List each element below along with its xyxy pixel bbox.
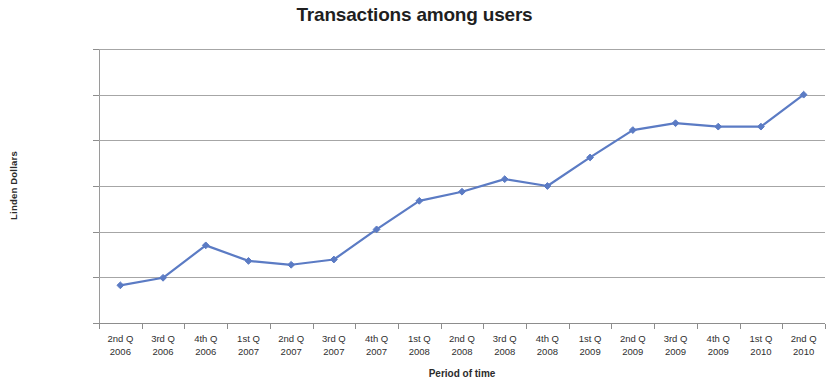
x-label-year: 2008 [483, 346, 526, 359]
x-axis-tick-label: 1st Q2010 [740, 333, 783, 358]
x-label-year: 2006 [142, 346, 185, 359]
x-label-quarter: 4th Q [697, 333, 740, 346]
x-axis-tick-label: 3rd Q2007 [313, 333, 356, 358]
y-axis-title: Linden Dollars [2, 120, 24, 250]
data-point-marker [459, 188, 466, 195]
x-axis-tick-mark [483, 324, 484, 329]
x-label-year: 2008 [441, 346, 484, 359]
x-axis-tick-mark [782, 324, 783, 329]
x-label-year: 2010 [782, 346, 825, 359]
x-label-quarter: 3rd Q [142, 333, 185, 346]
x-axis-tick-label: 1st Q2007 [227, 333, 270, 358]
x-label-year: 2007 [355, 346, 398, 359]
x-axis-tick-mark [99, 324, 100, 329]
x-axis-tick-mark [270, 324, 271, 329]
x-label-quarter: 4th Q [355, 333, 398, 346]
x-label-quarter: 3rd Q [313, 333, 356, 346]
data-point-marker [715, 123, 722, 130]
x-label-quarter: 3rd Q [654, 333, 697, 346]
x-axis-tick-mark [313, 324, 314, 329]
x-axis-tick-label: 3rd Q2009 [654, 333, 697, 358]
x-label-quarter: 2nd Q [99, 333, 142, 346]
x-label-quarter: 3rd Q [483, 333, 526, 346]
data-point-marker [501, 176, 508, 183]
chart-title: Transactions among users [0, 4, 829, 26]
data-point-marker [117, 282, 124, 289]
x-axis-tick-label: 3rd Q2006 [142, 333, 185, 358]
x-label-quarter: 2nd Q [611, 333, 654, 346]
x-axis-tick-label: 2nd Q2010 [782, 333, 825, 358]
x-axis-tick-mark [184, 324, 185, 329]
x-axis-tick-mark [569, 324, 570, 329]
x-axis-tick-mark [654, 324, 655, 329]
data-point-marker [672, 120, 679, 127]
x-axis-tick-label: 4th Q2009 [697, 333, 740, 358]
x-label-quarter: 1st Q [227, 333, 270, 346]
x-label-quarter: 2nd Q [782, 333, 825, 346]
x-axis-tick-label: 2nd Q2008 [441, 333, 484, 358]
x-label-year: 2006 [184, 346, 227, 359]
x-axis-tick-labels: 2nd Q20063rd Q20064th Q20061st Q20072nd … [99, 333, 825, 363]
x-label-year: 2006 [99, 346, 142, 359]
x-axis-tick-mark [142, 324, 143, 329]
data-point-marker [245, 257, 252, 264]
x-axis-tick-mark [441, 324, 442, 329]
x-label-quarter: 1st Q [398, 333, 441, 346]
x-label-year: 2007 [313, 346, 356, 359]
x-label-year: 2010 [740, 346, 783, 359]
series-marker-group [117, 91, 807, 288]
x-axis-tick-mark [355, 324, 356, 329]
x-axis-tick-label: 2nd Q2009 [611, 333, 654, 358]
x-axis-tick-label: 1st Q2009 [569, 333, 612, 358]
x-label-quarter: 2nd Q [270, 333, 313, 346]
x-axis-tick-label: 2nd Q2006 [99, 333, 142, 358]
x-axis-tick-label: 2nd Q2007 [270, 333, 313, 358]
plot-area [99, 49, 825, 323]
series-line-transactions [99, 49, 825, 323]
x-axis-tick-label: 1st Q2008 [398, 333, 441, 358]
line-chart: Transactions among users Linden Dollars … [0, 0, 829, 389]
x-label-quarter: 2nd Q [441, 333, 484, 346]
x-axis-tick-mark [611, 324, 612, 329]
x-axis-tick-mark [398, 324, 399, 329]
x-label-quarter: 4th Q [184, 333, 227, 346]
x-label-year: 2009 [569, 346, 612, 359]
x-axis-tick-mark [227, 324, 228, 329]
data-point-marker [288, 261, 295, 268]
y-axis-title-text: Linden Dollars [8, 151, 19, 220]
x-axis-tick-label: 4th Q2007 [355, 333, 398, 358]
x-axis-tick-mark [740, 324, 741, 329]
x-label-quarter: 1st Q [740, 333, 783, 346]
x-label-year: 2009 [654, 346, 697, 359]
x-label-year: 2007 [227, 346, 270, 359]
gridline [99, 323, 825, 324]
x-axis-tick-mark [526, 324, 527, 329]
x-axis-title: Period of time [99, 368, 825, 379]
x-label-year: 2008 [398, 346, 441, 359]
x-axis-tick-mark [825, 324, 826, 329]
x-label-year: 2007 [270, 346, 313, 359]
x-label-year: 2009 [697, 346, 740, 359]
x-label-quarter: 4th Q [526, 333, 569, 346]
x-label-quarter: 1st Q [569, 333, 612, 346]
x-axis-tick-label: 4th Q2006 [184, 333, 227, 358]
x-axis-tick-mark [697, 324, 698, 329]
x-label-year: 2009 [611, 346, 654, 359]
x-axis-tick-label: 3rd Q2008 [483, 333, 526, 358]
x-axis-tick-label: 4th Q2008 [526, 333, 569, 358]
x-label-year: 2008 [526, 346, 569, 359]
